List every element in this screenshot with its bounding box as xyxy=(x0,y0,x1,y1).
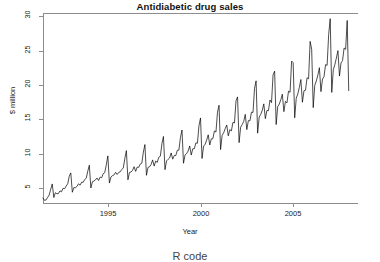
chart-container: Antidiabetic drug sales $ million Year 5… xyxy=(0,0,380,262)
data-series-antidiabetic-drug-sales xyxy=(43,19,349,201)
series-line-chart xyxy=(0,0,380,262)
footer-note: R code xyxy=(0,250,380,262)
